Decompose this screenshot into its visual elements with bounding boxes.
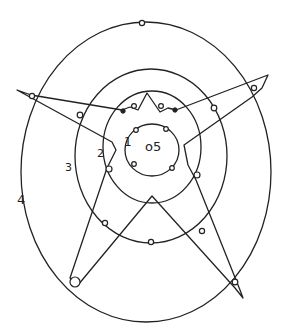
label-ring-3: 3 xyxy=(65,162,72,173)
node xyxy=(132,162,137,167)
label-ring-4: 4 xyxy=(17,193,25,206)
node xyxy=(134,128,139,133)
node xyxy=(106,166,112,172)
node xyxy=(132,104,137,109)
node xyxy=(170,166,175,171)
node xyxy=(199,228,204,233)
node xyxy=(77,112,83,118)
node xyxy=(251,85,256,90)
node xyxy=(139,20,144,25)
label-ring-2: 2 xyxy=(97,148,104,159)
node-filled xyxy=(121,109,125,113)
node xyxy=(29,93,34,98)
node xyxy=(232,279,238,285)
ring-4 xyxy=(21,22,271,322)
ring-star-diagram xyxy=(0,0,292,328)
label-ring-1: 1 xyxy=(124,136,132,148)
node xyxy=(102,220,107,225)
star-polygon xyxy=(17,75,268,298)
node xyxy=(70,277,80,287)
node xyxy=(194,172,200,178)
node xyxy=(159,104,164,109)
node xyxy=(211,105,217,111)
node xyxy=(164,127,169,132)
node xyxy=(148,239,153,244)
label-ring-0-5: o5 xyxy=(145,140,161,153)
node-filled xyxy=(173,108,177,112)
